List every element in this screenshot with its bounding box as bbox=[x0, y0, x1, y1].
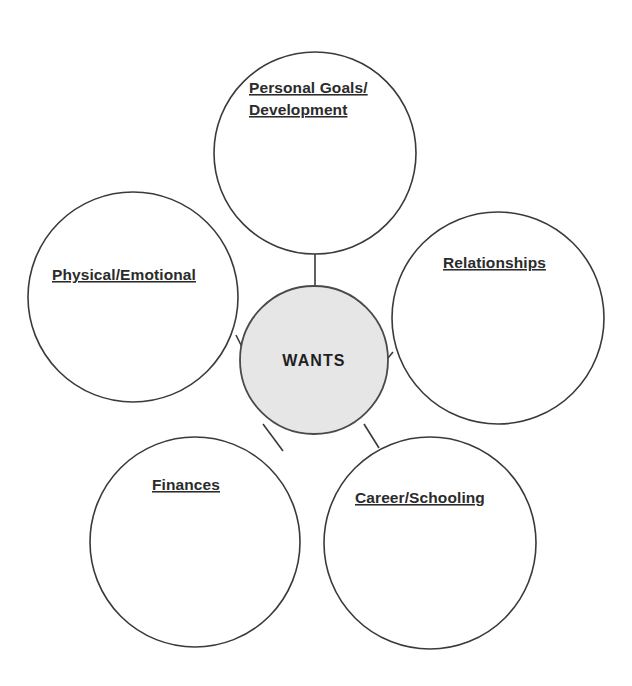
node-label-physical-emotional: Physical/Emotional bbox=[52, 266, 196, 283]
label-line: Career/Schooling bbox=[355, 489, 485, 506]
label-line: Physical/Emotional bbox=[52, 266, 196, 283]
label-line: Personal Goals/ bbox=[249, 79, 368, 96]
node-finances[interactable]: Finances bbox=[90, 437, 300, 647]
center-label-wants: WANTS bbox=[282, 352, 345, 369]
node-circle-physical-emotional[interactable] bbox=[28, 192, 238, 402]
diagram-canvas: Personal Goals/DevelopmentPhysical/Emoti… bbox=[0, 0, 632, 686]
connector-career-schooling bbox=[364, 424, 379, 448]
center-node-group[interactable]: WANTS bbox=[240, 286, 388, 434]
node-label-career-schooling: Career/Schooling bbox=[355, 489, 485, 506]
node-career-schooling[interactable]: Career/Schooling bbox=[324, 437, 536, 649]
node-relationships[interactable]: Relationships bbox=[392, 212, 604, 424]
label-line: Relationships bbox=[443, 254, 546, 271]
node-personal-goals-development[interactable]: Personal Goals/Development bbox=[214, 52, 416, 254]
node-circle-career-schooling[interactable] bbox=[324, 437, 536, 649]
label-line: Finances bbox=[152, 476, 220, 493]
wants-cluster-diagram: Personal Goals/DevelopmentPhysical/Emoti… bbox=[0, 0, 632, 686]
node-circle-finances[interactable] bbox=[90, 437, 300, 647]
connector-finances bbox=[263, 424, 283, 451]
node-physical-emotional[interactable]: Physical/Emotional bbox=[28, 192, 238, 402]
node-circle-relationships[interactable] bbox=[392, 212, 604, 424]
label-line: Development bbox=[249, 101, 347, 118]
node-label-relationships: Relationships bbox=[443, 254, 546, 271]
node-label-finances: Finances bbox=[152, 476, 220, 493]
